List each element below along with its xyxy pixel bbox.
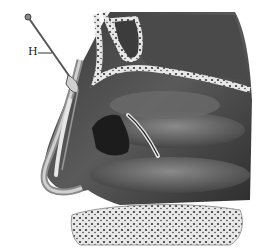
nasal-cavity-illustration: H xyxy=(0,0,264,251)
probe-tip xyxy=(25,14,31,20)
label-h: H xyxy=(28,45,38,58)
illustration-svg xyxy=(0,0,264,251)
